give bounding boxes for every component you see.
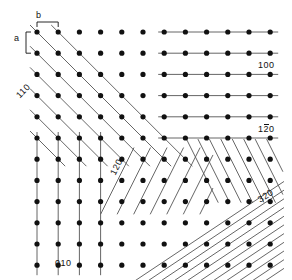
lattice-dot bbox=[56, 51, 61, 56]
lattice-dot bbox=[225, 114, 230, 119]
lattice-dot bbox=[98, 178, 103, 183]
lattice-dot bbox=[34, 220, 39, 225]
plane-family-010 bbox=[37, 132, 101, 275]
plane-trace bbox=[239, 251, 284, 280]
lattice-dot bbox=[77, 178, 82, 183]
lattice-dot bbox=[119, 72, 124, 77]
lattice-dot bbox=[183, 93, 188, 98]
lattice-dot bbox=[162, 72, 167, 77]
lattice-dot bbox=[268, 157, 273, 162]
lattice-dot bbox=[225, 178, 230, 183]
lattice-dot bbox=[246, 220, 251, 225]
lattice-dot bbox=[162, 241, 167, 246]
lattice-dot bbox=[140, 93, 145, 98]
plane-trace bbox=[200, 225, 284, 280]
lattice-dot bbox=[56, 220, 61, 225]
lattice-dot bbox=[246, 263, 251, 268]
lattice-dot bbox=[98, 93, 103, 98]
lattice-dot bbox=[204, 135, 209, 140]
lattice-dot bbox=[98, 199, 103, 204]
lattice-dot bbox=[268, 178, 273, 183]
lattice-dot bbox=[140, 51, 145, 56]
lattice-dot bbox=[119, 51, 124, 56]
lattice-dot bbox=[246, 241, 251, 246]
lattice-dot bbox=[77, 93, 82, 98]
plane-trace bbox=[30, 89, 108, 167]
lattice-dot bbox=[162, 199, 167, 204]
lattice-dot bbox=[140, 220, 145, 225]
lattice-dot bbox=[246, 114, 251, 119]
lattice-dot bbox=[204, 93, 209, 98]
lattice-dot bbox=[34, 263, 39, 268]
lattice-dot bbox=[183, 72, 188, 77]
lattice-dot bbox=[246, 157, 251, 162]
lattice-dot bbox=[162, 135, 167, 140]
lattice-dot bbox=[183, 51, 188, 56]
lattice-dot bbox=[246, 29, 251, 34]
lattice-dot bbox=[34, 51, 39, 56]
lattice-dot bbox=[56, 241, 61, 246]
lattice-dot bbox=[119, 220, 124, 225]
lattice-dot bbox=[34, 72, 39, 77]
lattice-dot bbox=[140, 263, 145, 268]
lattice-dot bbox=[34, 135, 39, 140]
lattice-dot bbox=[183, 178, 188, 183]
lattice-dot bbox=[204, 72, 209, 77]
lattice-dot bbox=[119, 114, 124, 119]
lattice-dot bbox=[225, 220, 230, 225]
lattice-dot bbox=[162, 114, 167, 119]
lattice-dot bbox=[225, 241, 230, 246]
lattice-dot bbox=[77, 157, 82, 162]
lattice-dot bbox=[268, 114, 273, 119]
lattice-dot bbox=[268, 241, 273, 246]
label-plane-1bar20: 120 bbox=[258, 124, 275, 134]
lattice-dot bbox=[98, 29, 103, 34]
plane-family-100 bbox=[158, 32, 278, 138]
plane-trace bbox=[183, 155, 213, 214]
lattice-dot bbox=[225, 199, 230, 204]
lattice-dot bbox=[246, 51, 251, 56]
lattice-dot bbox=[34, 241, 39, 246]
lattice-dot bbox=[119, 178, 124, 183]
lattice-plane-figure: b a 100 010 110 120 120 320 bbox=[0, 0, 292, 280]
lattice-dot bbox=[34, 29, 39, 34]
lattice-dot bbox=[204, 263, 209, 268]
plane-trace bbox=[161, 199, 284, 280]
lattice-dot bbox=[183, 263, 188, 268]
lattice-dot bbox=[183, 157, 188, 162]
lattice-dot bbox=[268, 51, 273, 56]
lattice-dot bbox=[98, 72, 103, 77]
lattice-dot bbox=[183, 29, 188, 34]
lattice-dot bbox=[140, 135, 145, 140]
lattice-dot bbox=[77, 220, 82, 225]
label-a-axis: a bbox=[14, 33, 20, 43]
lattice-dot bbox=[204, 29, 209, 34]
lattice-dot bbox=[98, 135, 103, 140]
lattice-dot bbox=[140, 241, 145, 246]
lattice-dot bbox=[162, 263, 167, 268]
lattice-dot bbox=[140, 199, 145, 204]
lattice-dot bbox=[77, 241, 82, 246]
lattice-dot bbox=[77, 199, 82, 204]
label-plane-010: 010 bbox=[55, 258, 72, 268]
label-1bar20-digit3: 0 bbox=[269, 124, 275, 134]
lattice-dot bbox=[119, 241, 124, 246]
lattice-dot bbox=[246, 93, 251, 98]
lattice-dot bbox=[225, 135, 230, 140]
lattice-dot bbox=[268, 93, 273, 98]
lattice-dot bbox=[204, 51, 209, 56]
lattice-dot bbox=[77, 114, 82, 119]
lattice-dot bbox=[162, 220, 167, 225]
lattice-dot bbox=[183, 199, 188, 204]
lattice-dot bbox=[56, 178, 61, 183]
lattice-dot bbox=[140, 157, 145, 162]
lattice-dot bbox=[268, 72, 273, 77]
lattice-dot bbox=[77, 263, 82, 268]
lattice-dot bbox=[246, 178, 251, 183]
lattice-dot bbox=[119, 263, 124, 268]
plane-trace bbox=[148, 190, 284, 280]
lattice-dot bbox=[98, 157, 103, 162]
lattice-dot bbox=[34, 178, 39, 183]
lattice-dot bbox=[183, 241, 188, 246]
lattice-dot bbox=[204, 157, 209, 162]
